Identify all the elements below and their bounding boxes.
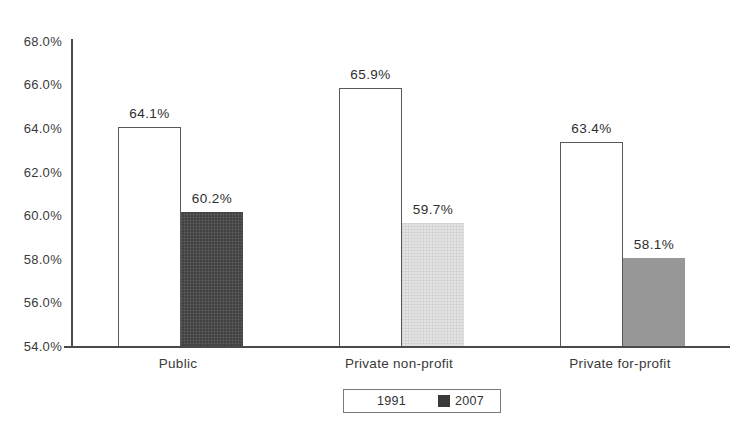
y-axis-tick-label: 68.0%: [0, 34, 62, 50]
legend-label-2007: 2007: [455, 394, 484, 408]
bar-value-label-1991-private-non-profit: 65.9%: [350, 67, 390, 83]
bar-2007-private-for-profit: [623, 258, 685, 347]
bar-2007-private-non-profit: [402, 223, 464, 347]
legend-item-2007: 2007: [438, 394, 484, 408]
legend-swatch-1991-icon: [360, 395, 372, 407]
bar-1991-private-non-profit: [339, 88, 402, 347]
grouped-bar-chart-figure: 54.0%56.0%58.0%60.0%62.0%64.0%66.0%68.0%…: [0, 0, 748, 424]
y-axis-tick-label: 66.0%: [0, 77, 62, 93]
bar-value-label-2007-public: 60.2%: [192, 191, 232, 207]
plot-area: 54.0%56.0%58.0%60.0%62.0%64.0%66.0%68.0%…: [0, 0, 748, 424]
legend: 1991 2007: [343, 389, 501, 413]
y-axis-line: [71, 39, 73, 347]
legend-label-1991: 1991: [377, 394, 406, 408]
y-axis-tick-label: 56.0%: [0, 295, 62, 311]
category-label-private-for-profit: Private for-profit: [569, 356, 670, 372]
legend-item-1991: 1991: [360, 394, 406, 408]
bar-1991-private-for-profit: [560, 142, 623, 347]
bar-value-label-2007-private-for-profit: 58.1%: [634, 237, 674, 253]
y-axis-tick-label: 64.0%: [0, 121, 62, 137]
y-axis-tick-label: 58.0%: [0, 252, 62, 268]
bar-value-label-2007-private-non-profit: 59.7%: [413, 202, 453, 218]
y-axis-tick-label: 62.0%: [0, 165, 62, 181]
bar-value-label-1991-public: 64.1%: [129, 106, 169, 122]
category-label-private-non-profit: Private non-profit: [345, 356, 453, 372]
legend-swatch-2007-icon: [438, 395, 450, 407]
x-axis-line: [64, 346, 730, 348]
y-axis-tick-label: 54.0%: [0, 339, 62, 355]
bar-1991-public: [118, 127, 181, 347]
category-label-public: Public: [159, 356, 198, 372]
bar-value-label-1991-private-for-profit: 63.4%: [571, 121, 611, 137]
bar-2007-public: [181, 212, 243, 347]
y-axis-tick-label: 60.0%: [0, 208, 62, 224]
